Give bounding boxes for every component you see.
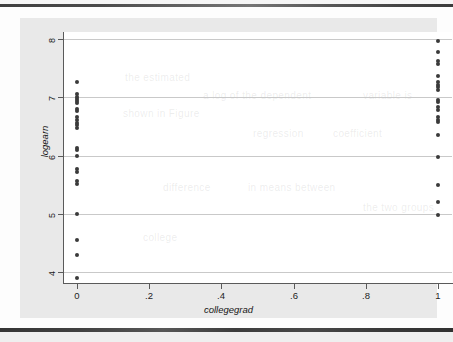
ghost-text: difference [163, 182, 211, 193]
y-tick-5 [58, 214, 63, 215]
x-tick-.8 [366, 284, 367, 289]
x-tick-label-.2: .2 [134, 290, 164, 301]
x-tick-label-.4: .4 [206, 290, 236, 301]
page-bottom-margin [0, 332, 453, 342]
scatter-point [436, 213, 440, 217]
ghost-text: the two groups [363, 202, 434, 213]
y-tick-label-8: 8 [47, 38, 57, 70]
x-tick-.4 [221, 284, 222, 289]
ghost-text: variable is [363, 90, 412, 101]
scatter-point [75, 276, 79, 280]
scatter-point [75, 238, 79, 242]
ghost-text: in means between [248, 182, 336, 193]
y-tick-label-5: 5 [47, 213, 57, 245]
scatter-point [436, 88, 440, 92]
scatter-point [436, 100, 440, 104]
x-tick-.2 [149, 284, 150, 289]
x-tick-0 [77, 284, 78, 289]
x-tick-1 [438, 284, 439, 289]
scatter-point [75, 212, 79, 216]
y-axis-line [63, 32, 64, 284]
gridline-y-5 [63, 214, 452, 215]
scatter-point [75, 170, 79, 174]
scatter-point [75, 253, 79, 257]
x-tick-label-0: 0 [62, 290, 92, 301]
y-axis-title: logearn [39, 112, 50, 172]
scatter-point [75, 182, 79, 186]
scatter-point [436, 39, 440, 43]
y-tick-label-4: 4 [47, 271, 57, 303]
graph-region: the estimateda log of the dependentvaria… [20, 18, 437, 318]
ghost-text: shown in Figure [123, 108, 200, 119]
y-tick-7 [58, 97, 63, 98]
x-axis-line [63, 283, 453, 284]
scatter-point [436, 50, 440, 54]
scatter-point [436, 74, 440, 78]
scatter-point [436, 120, 440, 124]
x-tick-label-.6: .6 [279, 290, 309, 301]
y-tick-4 [58, 272, 63, 273]
x-tick-label-1: 1 [423, 290, 453, 301]
scatter-point [75, 101, 79, 105]
scatter-point [436, 108, 440, 112]
x-tick-.6 [294, 284, 295, 289]
plot-area: the estimateda log of the dependentvaria… [63, 32, 452, 283]
scanned-page: the estimateda log of the dependentvaria… [0, 0, 453, 342]
scatter-point [75, 80, 79, 84]
scatter-point [436, 133, 440, 137]
scatter-point [436, 183, 440, 187]
ghost-text: coefficient [333, 128, 382, 139]
scatter-point [436, 155, 440, 159]
scan-edge-line-top [0, 4, 453, 7]
scatter-point [436, 62, 440, 66]
scatter-point [436, 200, 440, 204]
gridline-y-6 [63, 156, 452, 157]
y-tick-6 [58, 156, 63, 157]
x-tick-label-.8: .8 [351, 290, 381, 301]
ghost-text: the estimated [125, 72, 190, 83]
scatter-point [75, 126, 79, 130]
ghost-text: a log of the dependent [203, 90, 311, 101]
gridline-y-8 [63, 39, 452, 40]
gridline-y-7 [63, 97, 452, 98]
scatter-point [75, 154, 79, 158]
ghost-text: college [143, 232, 178, 243]
scatter-point [75, 109, 79, 113]
x-axis-title: collegegrad [20, 304, 437, 315]
ghost-text: regression [253, 128, 304, 139]
scatter-point [75, 148, 79, 152]
y-tick-8 [58, 39, 63, 40]
gridline-y-4 [63, 272, 452, 273]
